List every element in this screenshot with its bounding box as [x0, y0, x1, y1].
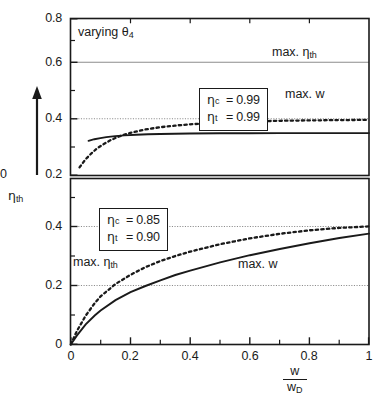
label-bottom-max-eta-th-text: max. η: [73, 255, 111, 269]
xtick-label-0: 0: [51, 350, 91, 362]
param-row-eta-t-top: ηt = 0.99: [207, 109, 260, 126]
panel-top-title: varying θ4: [78, 26, 133, 42]
ytick-label-top-0.4: 0.4: [22, 112, 62, 124]
yticks-bottom-major: [71, 227, 78, 345]
panel-top-title-text: varying θ: [78, 25, 129, 39]
xtick-label-0.2: 0.2: [110, 350, 150, 362]
ytick-label-outer-zero: 0: [0, 168, 7, 180]
eta-c-subscript-top: c: [215, 93, 226, 109]
ytick-label-bottom-0.4: 0.4: [22, 220, 62, 232]
x-axis-title-denominator-base: w: [287, 380, 296, 394]
param-row-eta-c-top: ηc = 0.99: [207, 92, 260, 109]
xtick-label-1: 1: [349, 350, 380, 362]
eta-t-subscript-top: t: [215, 110, 226, 126]
ytick-label-top-0.8: 0.8: [22, 12, 62, 24]
eta-t-symbol-top: η: [207, 109, 215, 125]
label-bottom-max-eta-th-subscript: th: [111, 260, 118, 270]
eta-c-value-bottom: = 0.85: [126, 212, 160, 228]
panel-top-title-subscript: 4: [129, 30, 134, 40]
param-row-eta-t-bottom: ηt = 0.90: [107, 229, 160, 246]
label-top-max-eta-th-subscript: th: [310, 50, 317, 60]
ytick-label-top-0.2: 0.2: [22, 168, 62, 180]
eta-t-subscript-bottom: t: [115, 230, 126, 246]
panel-bottom: [71, 19, 370, 345]
eta-c-value-top: = 0.99: [226, 92, 260, 108]
xticks-minor: [101, 340, 340, 345]
xtick-label-0.4: 0.4: [170, 350, 210, 362]
y-axis-title-subscript: th: [16, 194, 23, 204]
eta-t-value-top: = 0.99: [226, 109, 260, 125]
xtick-label-0.6: 0.6: [230, 350, 270, 362]
x-axis-title-denominator-subscript: D: [296, 385, 303, 395]
figure-root: 0.8 0.6 0.4 0.2 0 0.4 0.2 0 0 0.2 0.4 0.…: [0, 0, 380, 403]
eta-c-subscript-bottom: c: [115, 213, 126, 229]
y-axis-title-symbol: η: [8, 188, 16, 203]
x-axis-title-numerator: w: [283, 365, 307, 379]
eta-c-symbol-top: η: [207, 92, 215, 108]
label-top-max-eta-th-text: max. η: [272, 45, 310, 59]
ytick-label-top-0.6: 0.6: [22, 56, 62, 68]
label-bottom-max-w: max. w: [238, 258, 278, 271]
param-box-top: ηc = 0.99 ηt = 0.99: [199, 88, 268, 131]
yticks-top-major: [71, 19, 78, 175]
y-axis-title: ηth: [8, 190, 23, 205]
x-axis-title-denominator: wD: [283, 379, 307, 397]
param-row-eta-c-bottom: ηc = 0.85: [107, 212, 160, 229]
label-bottom-max-eta-th: max. ηth: [73, 256, 117, 272]
param-box-bottom: ηc = 0.85 ηt = 0.90: [99, 208, 168, 251]
eta-c-symbol-bottom: η: [107, 212, 115, 228]
y-direction-arrow: [32, 86, 42, 175]
ytick-label-bottom-0: 0: [22, 338, 62, 350]
label-top-max-eta-th: max. ηth: [272, 46, 316, 62]
xticks-top-edge: [131, 19, 310, 24]
label-top-max-w: max. w: [285, 88, 325, 101]
eta-t-value-bottom: = 0.90: [126, 229, 160, 245]
ytick-label-bottom-0.2: 0.2: [22, 279, 62, 291]
eta-t-symbol-bottom: η: [107, 229, 115, 245]
xtick-label-0.8: 0.8: [289, 350, 329, 362]
x-axis-title: w wD: [283, 365, 307, 397]
curve-top-max-w: [89, 133, 370, 141]
